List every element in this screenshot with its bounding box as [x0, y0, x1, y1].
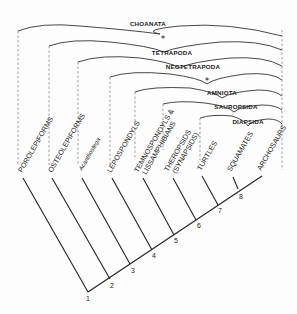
branch-theropsids	[173, 178, 196, 220]
node-label-4: 4	[152, 252, 156, 259]
clade-label-sauropsida: SAUROPSIDA	[214, 103, 258, 110]
branch-porolepiforms	[23, 178, 88, 292]
branch-acanthostega	[82, 178, 130, 264]
branch-temnospondyls	[143, 178, 174, 235]
node-label-3: 3	[131, 267, 135, 274]
node-label-8: 8	[239, 193, 243, 200]
branch-turtles	[202, 176, 218, 205]
amniota-brace	[110, 73, 282, 84]
clade-label-choanata: CHOANATA	[130, 20, 166, 27]
branch-squamates	[233, 177, 238, 189]
branch-osteolepiforms	[52, 178, 110, 279]
cladogram-svg: CHOANATA * TETRAPODA NEOTETRAPODA * AMNI…	[0, 0, 297, 314]
node-label-7: 7	[218, 207, 222, 214]
node-label-2: 2	[110, 282, 114, 289]
star-icon: *	[161, 34, 166, 44]
clade-label-amniota: AMNIOTA	[207, 89, 237, 96]
taxon-label-acanthostega: Acanthostega	[77, 136, 101, 172]
node-label-6: 6	[197, 222, 201, 229]
clade-label-diapsida: DIAPSIDA	[232, 118, 263, 125]
cladogram: CHOANATA * TETRAPODA NEOTETRAPODA * AMNI…	[0, 0, 297, 314]
node-label-5: 5	[174, 237, 178, 244]
clade-label-neotetrapoda: NEOTETRAPODA	[166, 63, 221, 70]
clade-label-tetrapoda: TETRAPODA	[152, 49, 193, 56]
spine-branch	[88, 176, 262, 292]
branch-lepospondyls	[112, 178, 152, 250]
star-icon: *	[205, 76, 210, 86]
taxon-label-squamates: SQUAMATES	[225, 130, 255, 173]
taxon-label-turtles: TURTLES	[195, 139, 219, 172]
node-label-1: 1	[86, 295, 90, 302]
taxon-label-archosaurs: ARCHOSAURS	[255, 123, 288, 172]
